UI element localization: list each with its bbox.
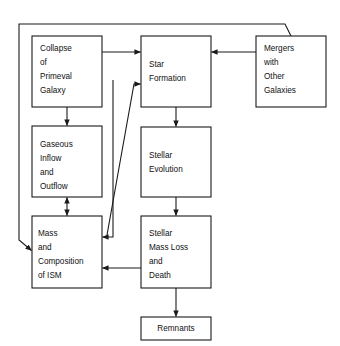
node-mergers-line-0: Mergers — [264, 44, 294, 53]
node-mergers-line-3: Galaxies — [264, 86, 296, 95]
node-mass-ism-line-3: of ISM — [38, 271, 62, 280]
node-mass-loss[interactable]: Stellar Mass Loss and Death — [141, 216, 211, 288]
node-mass-loss-line-2: and — [149, 257, 163, 266]
node-star-formation-box[interactable] — [141, 36, 211, 107]
node-collapse[interactable]: Collapse of Primeval Galaxy — [32, 36, 102, 107]
edge-star-formation-to-mass-ism — [103, 80, 114, 237]
node-mass-ism[interactable]: Mass and Composition of ISM — [32, 216, 102, 288]
node-collapse-line-2: Primeval — [40, 72, 72, 81]
node-remnants[interactable]: Remnants — [141, 317, 211, 340]
node-gaseous[interactable]: Gaseous Inflow and Outflow — [32, 126, 102, 197]
flow-diagram-canvas: Collapse of Primeval Galaxy Star Formati… — [0, 0, 340, 346]
node-mergers-line-1: with — [263, 58, 279, 67]
node-mergers[interactable]: Mergers with Other Galaxies — [256, 36, 326, 107]
node-mass-loss-line-0: Stellar — [149, 229, 172, 238]
flow-diagram: Collapse of Primeval Galaxy Star Formati… — [0, 0, 340, 346]
node-star-formation-line-0: Star — [149, 60, 164, 69]
node-stellar-evolution-line-1: Evolution — [149, 165, 183, 174]
node-stellar-evolution-box[interactable] — [141, 127, 211, 197]
node-stellar-evolution-line-0: Stellar — [149, 151, 172, 160]
node-collapse-line-1: of — [40, 58, 48, 67]
node-collapse-line-0: Collapse — [40, 44, 72, 53]
node-mass-ism-line-1: and — [38, 243, 52, 252]
edge-mass-ism-to-star-formation — [107, 84, 141, 235]
node-star-formation-line-1: Formation — [149, 74, 186, 83]
node-remnants-line-0: Remnants — [157, 324, 194, 333]
node-stellar-evolution[interactable]: Stellar Evolution — [141, 127, 211, 197]
node-gaseous-line-3: Outflow — [40, 182, 68, 191]
node-mass-ism-line-0: Mass — [38, 229, 58, 238]
node-gaseous-line-1: Inflow — [40, 154, 61, 163]
node-collapse-line-3: Galaxy — [40, 86, 66, 95]
node-star-formation[interactable]: Star Formation — [141, 36, 211, 107]
node-mass-loss-line-3: Death — [149, 271, 171, 280]
node-gaseous-line-2: and — [40, 168, 54, 177]
node-mass-loss-line-1: Mass Loss — [149, 243, 188, 252]
node-gaseous-line-0: Gaseous — [40, 140, 73, 149]
node-mergers-line-2: Other — [264, 72, 285, 81]
node-mass-ism-line-2: Composition — [38, 257, 84, 266]
